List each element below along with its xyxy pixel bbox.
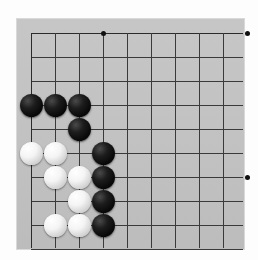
stone-white-c1r5[interactable]: [44, 142, 67, 165]
grid-line-vertical-4: [127, 33, 128, 248]
grid-line-vertical-0: [31, 33, 32, 248]
stone-white-c1r8[interactable]: [44, 214, 67, 237]
star-point-right-side: [245, 175, 250, 180]
stone-black-c2r4[interactable]: [68, 118, 91, 141]
grid-line-vertical-5: [151, 33, 152, 248]
grid-line-horizontal-2: [31, 81, 243, 82]
stone-white-c2r8[interactable]: [68, 214, 91, 237]
stone-white-c2r7[interactable]: [68, 190, 91, 213]
stone-black-c3r5[interactable]: [92, 142, 115, 165]
stone-black-c3r8[interactable]: [92, 214, 115, 237]
stone-black-c2r3[interactable]: [68, 94, 91, 117]
stone-white-c2r6[interactable]: [68, 166, 91, 189]
grid-line-horizontal-1: [31, 57, 243, 58]
stone-white-c1r6[interactable]: [44, 166, 67, 189]
go-board-container: [0, 0, 258, 260]
stone-black-c1r3[interactable]: [44, 94, 67, 117]
grid-line-vertical-6: [175, 33, 176, 248]
grid-line-horizontal-0: [31, 33, 243, 34]
go-board-surface[interactable]: [17, 19, 244, 249]
grid-line-vertical-7: [199, 33, 200, 248]
grid-line-vertical-8: [223, 33, 224, 248]
stone-white-c0r5[interactable]: [20, 142, 43, 165]
grid-line-horizontal-7: [31, 201, 243, 202]
star-point-top-right: [245, 31, 250, 36]
stone-black-c0r3[interactable]: [20, 94, 43, 117]
stone-black-c3r7[interactable]: [92, 190, 115, 213]
stone-black-c3r6[interactable]: [92, 166, 115, 189]
grid-line-horizontal-4: [31, 129, 243, 130]
grid-line-horizontal-9: [31, 249, 243, 250]
star-point-top-left: [101, 31, 106, 36]
